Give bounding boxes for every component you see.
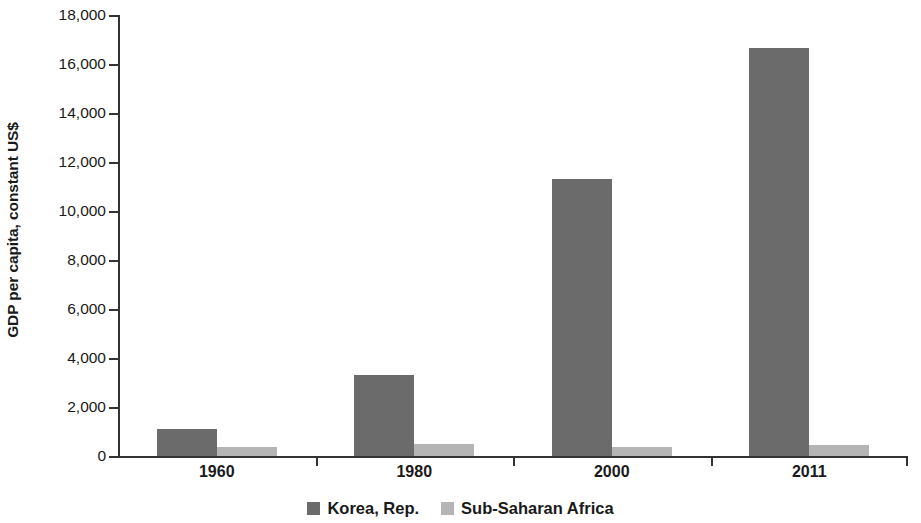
bar	[157, 429, 217, 456]
y-axis-tick-mark	[109, 64, 118, 66]
y-axis-title: GDP per capita, constant US$	[0, 0, 26, 460]
y-axis-tick-label: 12,000	[59, 153, 106, 171]
y-axis-tick-mark	[109, 211, 118, 213]
bar	[749, 48, 809, 456]
y-axis-tick-label: 6,000	[67, 300, 106, 318]
y-axis-tick-label: 4,000	[67, 349, 106, 367]
y-axis-title-text: GDP per capita, constant US$	[4, 122, 22, 338]
y-axis-tick-mark	[109, 260, 118, 262]
bar	[217, 447, 277, 456]
x-axis-tick-label: 1980	[396, 463, 432, 481]
x-axis-tick-label: 2000	[594, 463, 630, 481]
legend-item: Sub-Saharan Africa	[441, 499, 614, 518]
plot-area: 02,0004,0006,0008,00010,00012,00014,0001…	[118, 15, 908, 456]
y-axis-tick-mark	[109, 162, 118, 164]
y-axis-tick-mark	[109, 456, 118, 458]
y-axis-tick-label: 8,000	[67, 251, 106, 269]
y-axis-tick-mark	[109, 309, 118, 311]
y-axis-tick-label: 16,000	[59, 55, 106, 73]
chart-legend: Korea, Rep. Sub-Saharan Africa	[0, 495, 921, 521]
legend-item: Korea, Rep.	[307, 499, 419, 518]
y-axis-tick-label: 0	[97, 447, 106, 465]
bar	[809, 445, 869, 456]
bar	[414, 444, 474, 456]
x-axis-tick-label: 2011	[792, 463, 827, 481]
y-axis-tick-mark	[109, 407, 118, 409]
y-axis-tick-mark	[109, 15, 118, 17]
y-axis-tick-label: 10,000	[59, 202, 106, 220]
y-axis-tick-label: 18,000	[59, 6, 106, 24]
y-axis-tick-label: 14,000	[59, 104, 106, 122]
legend-swatch-sub-saharan-africa	[441, 502, 454, 515]
bar	[552, 179, 612, 456]
bar	[612, 447, 672, 456]
y-axis-tick-mark	[109, 113, 118, 115]
x-axis-tick-label: 1960	[199, 463, 235, 481]
y-axis-tick-mark	[109, 358, 118, 360]
y-axis-tick-label: 2,000	[67, 398, 106, 416]
bar-chart-figure: GDP per capita, constant US$ 02,0004,000…	[0, 0, 921, 523]
legend-label-sub-saharan-africa: Sub-Saharan Africa	[461, 499, 614, 518]
bars-layer	[118, 15, 908, 456]
bar	[354, 375, 414, 456]
x-axis-tick-labels: 1960198020002011	[118, 463, 908, 489]
legend-label-korea: Korea, Rep.	[327, 499, 419, 518]
legend-swatch-korea	[307, 502, 320, 515]
